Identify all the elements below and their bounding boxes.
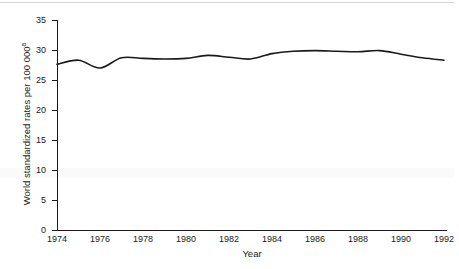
y-axis-title: World standardized rates per 100 000a (20, 19, 32, 229)
series-line-world-rate (57, 51, 444, 68)
y-axis-title-superscript: a (20, 43, 27, 47)
y-axis-title-text: World standardized rates per 100 000 (21, 47, 32, 206)
x-axis-title: Year (57, 248, 447, 259)
